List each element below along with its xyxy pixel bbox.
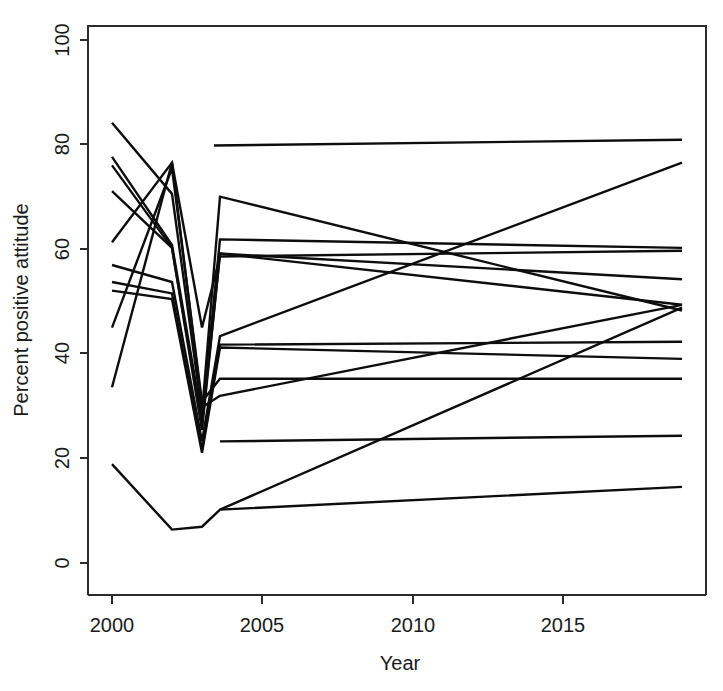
x-tick-label-2000: 2000 xyxy=(90,614,135,636)
y-tick-label-100: 100 xyxy=(51,23,73,56)
y-tick-label-20: 20 xyxy=(51,447,73,469)
y-tick-label-0: 0 xyxy=(51,557,73,568)
x-tick-label-2015: 2015 xyxy=(541,614,586,636)
y-tick-label-60: 60 xyxy=(51,238,73,260)
x-tick-label-2010: 2010 xyxy=(391,614,436,636)
chart-figure: 0 20 40 60 80 100 2000 2005 2010 2015 Ye… xyxy=(0,0,723,691)
chart-background xyxy=(0,0,723,691)
y-tick-label-80: 80 xyxy=(51,133,73,155)
x-tick-label-2005: 2005 xyxy=(240,614,285,636)
x-axis-title: Year xyxy=(380,652,421,674)
y-tick-label-40: 40 xyxy=(51,342,73,364)
y-axis-title: Percent positive attitude xyxy=(10,203,32,416)
line-chart-svg: 0 20 40 60 80 100 2000 2005 2010 2015 Ye… xyxy=(0,0,723,691)
